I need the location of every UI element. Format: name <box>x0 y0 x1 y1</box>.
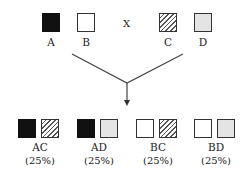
allele-d-box <box>194 13 212 32</box>
allele-b-box <box>194 119 212 138</box>
allele-b-box <box>77 13 95 32</box>
cross-symbol: X <box>123 18 130 29</box>
allele-d-box <box>100 119 118 138</box>
allele-a-box <box>42 13 60 32</box>
allele-c-box <box>41 119 59 138</box>
allele-c-label: C <box>153 37 183 48</box>
genotype-label: BD <box>201 142 231 153</box>
genotype-percent: (25%) <box>196 155 236 166</box>
genotype-percent: (25%) <box>20 155 60 166</box>
genotype-percent: (25%) <box>79 155 119 166</box>
genotype-label: BC <box>143 142 173 153</box>
allele-c-box <box>159 119 177 138</box>
allele-b-box <box>136 119 154 138</box>
allele-a-box <box>77 119 95 138</box>
allele-d-label: D <box>188 37 218 48</box>
allele-c-box <box>159 13 177 32</box>
allele-d-box <box>217 119 235 138</box>
genotype-label: AC <box>25 142 55 153</box>
allele-a-box <box>18 119 36 138</box>
genotype-percent: (25%) <box>138 155 178 166</box>
allele-a-label: A <box>36 37 66 48</box>
genotype-label: AD <box>84 142 114 153</box>
allele-b-label: B <box>71 37 101 48</box>
